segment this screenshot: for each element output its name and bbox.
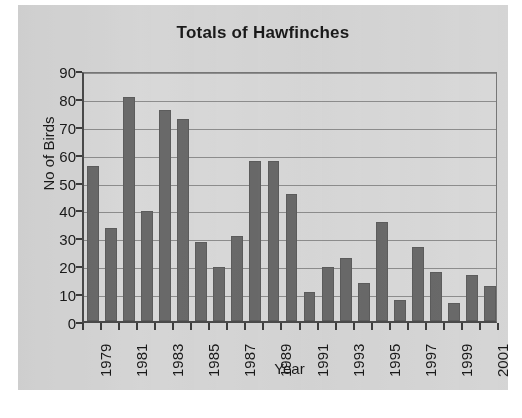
bar: [105, 228, 117, 321]
x-axis-tick-mark: [425, 323, 427, 330]
x-axis-tick-mark: [118, 323, 120, 330]
x-axis-tick-mark: [262, 323, 264, 330]
bar: [159, 110, 171, 321]
bar: [195, 242, 207, 321]
y-axis-tick-label: 40: [46, 203, 76, 220]
x-axis-tick-mark: [407, 323, 409, 330]
x-axis-tick-mark: [389, 323, 391, 330]
bar: [286, 194, 298, 321]
y-axis-tick-label: 90: [46, 64, 76, 81]
y-axis-tick-label: 20: [46, 259, 76, 276]
x-axis-tick-mark: [154, 323, 156, 330]
x-axis-tick-mark: [172, 323, 174, 330]
x-axis-tick-mark: [190, 323, 192, 330]
bar: [358, 283, 370, 321]
bar: [249, 161, 261, 321]
bar: [430, 272, 442, 321]
y-axis-tick-labels: 9080706050403020100: [38, 72, 76, 323]
bar: [304, 292, 316, 321]
bar: [87, 166, 99, 321]
bar: [177, 119, 189, 321]
x-axis-tick-mark: [299, 323, 301, 330]
y-axis-tick-label: 10: [46, 287, 76, 304]
x-axis-tick-mark: [136, 323, 138, 330]
bar: [231, 236, 243, 321]
x-axis-tick-mark: [443, 323, 445, 330]
bar: [268, 161, 280, 321]
x-axis-tick-mark: [280, 323, 282, 330]
chart-title: Totals of Hawfinches: [18, 23, 508, 43]
x-axis-tick-mark: [479, 323, 481, 330]
bar: [340, 258, 352, 321]
y-axis-tick-label: 70: [46, 119, 76, 136]
bar: [376, 222, 388, 321]
bar: [322, 267, 334, 321]
x-axis-title: Year: [82, 360, 497, 377]
bars-layer: [84, 73, 496, 321]
x-axis-tick-mark: [461, 323, 463, 330]
bar: [466, 275, 478, 321]
x-axis-tick-mark: [82, 323, 84, 330]
bar: [448, 303, 460, 321]
bar: [141, 211, 153, 321]
x-axis-tick-mark: [100, 323, 102, 330]
x-axis-tick-mark: [317, 323, 319, 330]
x-axis-tick-mark: [353, 323, 355, 330]
x-axis-tick-mark: [226, 323, 228, 330]
bar: [412, 247, 424, 321]
x-axis-tick-mark: [335, 323, 337, 330]
bar: [213, 267, 225, 321]
x-axis-tick-mark: [371, 323, 373, 330]
x-axis-tick-mark: [497, 323, 499, 330]
x-axis-tick-mark: [244, 323, 246, 330]
plot-area: [82, 72, 497, 323]
x-axis-tick-mark: [208, 323, 210, 330]
bar: [123, 97, 135, 322]
y-axis-tick-label: 30: [46, 231, 76, 248]
y-axis-tick-label: 50: [46, 175, 76, 192]
x-axis-tick-marks: [82, 323, 497, 330]
bar: [394, 300, 406, 321]
y-axis-tick-label: 80: [46, 91, 76, 108]
bar: [484, 286, 496, 321]
y-axis-tick-label: 0: [46, 315, 76, 332]
chart-card: Totals of Hawfinches No of Birds 9080706…: [18, 5, 508, 390]
y-axis-tick-label: 60: [46, 147, 76, 164]
